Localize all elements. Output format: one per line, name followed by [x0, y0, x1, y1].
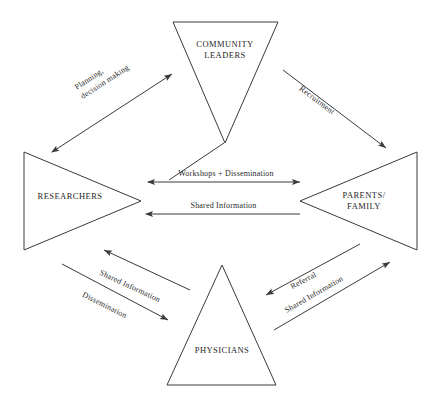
edge-label-shared-information-center: Shared Information	[151, 201, 296, 212]
node-shape-community-leaders	[173, 22, 278, 143]
edge-line-researchers-community-leaders	[52, 74, 172, 152]
node-shape-physicians	[167, 265, 276, 385]
stakeholder-diagram: COMMUNITY LEADERS RESEARCHERS PARENTS/ F…	[0, 0, 441, 406]
edge-line-physicians-parents-shared	[274, 262, 390, 330]
node-shape-parents-family	[300, 152, 417, 250]
edge-label-workshops-dissemination: Workshops + Dissemination	[151, 169, 301, 180]
node-shape-researchers	[24, 152, 141, 250]
